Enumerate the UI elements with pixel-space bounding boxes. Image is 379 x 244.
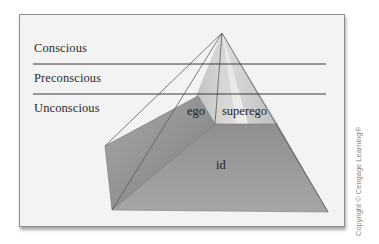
label-id: id <box>216 158 226 173</box>
copyright-notice: Copyright © Cengage Learning® <box>354 127 363 236</box>
label-unconscious: Unconscious <box>34 101 100 116</box>
label-superego: superego <box>222 104 267 119</box>
pyramid-graphic <box>0 0 379 244</box>
label-preconscious: Preconscious <box>34 71 101 86</box>
label-ego: ego <box>187 104 205 119</box>
label-conscious: Conscious <box>34 41 87 56</box>
